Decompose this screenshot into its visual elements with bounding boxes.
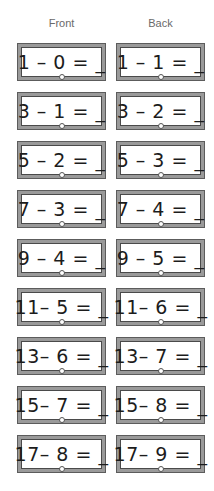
- flashcard-back: 7 – 4 = _: [116, 190, 205, 228]
- ring-hole-icon: [59, 270, 65, 276]
- card-face: 9 – 5 = _: [120, 243, 201, 273]
- equation-text: 7 – 4 = _: [117, 200, 205, 219]
- ring-hole-icon: [59, 221, 65, 227]
- equation-text: 5 – 2 = _: [18, 151, 106, 170]
- flashcard-front: 5 – 2 = _: [17, 141, 106, 179]
- ring-hole-icon: [59, 319, 65, 325]
- back-column-header: Back: [116, 17, 205, 29]
- card-face: 5 – 2 = _: [21, 145, 102, 175]
- flashcard-front: 9 – 4 = _: [17, 239, 106, 277]
- flashcard-back: 13– 7 = _: [116, 337, 205, 375]
- flashcard-back: 15– 8 = _: [116, 386, 205, 424]
- ring-hole-icon: [158, 123, 164, 129]
- ring-hole-icon: [158, 172, 164, 178]
- equation-text: 9 – 4 = _: [18, 249, 106, 268]
- flashcard-back: 17– 9 = _: [116, 435, 205, 473]
- ring-hole-icon: [158, 221, 164, 227]
- card-face: 11– 5 = _: [21, 292, 102, 322]
- equation-text: 17– 9 = _: [114, 445, 208, 464]
- card-face: 1 – 0 = _: [21, 47, 102, 77]
- card-face: 15– 7 = _: [21, 390, 102, 420]
- card-face: 3 – 2 = _: [120, 96, 201, 126]
- card-face: 5 – 3 = _: [120, 145, 201, 175]
- equation-text: 15– 8 = _: [114, 396, 208, 415]
- equation-text: 13– 7 = _: [114, 347, 208, 366]
- flashcard-back: 11– 6 = _: [116, 288, 205, 326]
- ring-hole-icon: [158, 417, 164, 423]
- ring-hole-icon: [158, 368, 164, 374]
- card-face: 7 – 4 = _: [120, 194, 201, 224]
- card-face: 1 – 1 = _: [120, 47, 201, 77]
- ring-hole-icon: [59, 74, 65, 80]
- ring-hole-icon: [59, 172, 65, 178]
- ring-hole-icon: [158, 270, 164, 276]
- equation-text: 5 – 3 = _: [117, 151, 205, 170]
- equation-text: 9 – 5 = _: [117, 249, 205, 268]
- flashcard-front: 3 – 1 = _: [17, 92, 106, 130]
- flashcard-front: 13– 6 = _: [17, 337, 106, 375]
- card-face: 17– 8 = _: [21, 439, 102, 469]
- equation-text: 3 – 2 = _: [117, 102, 205, 121]
- card-face: 11– 6 = _: [120, 292, 201, 322]
- flashcard-back: 3 – 2 = _: [116, 92, 205, 130]
- flashcard-front: 11– 5 = _: [17, 288, 106, 326]
- card-face: 3 – 1 = _: [21, 96, 102, 126]
- ring-hole-icon: [158, 74, 164, 80]
- ring-hole-icon: [59, 466, 65, 472]
- ring-hole-icon: [59, 123, 65, 129]
- equation-text: 13– 6 = _: [15, 347, 109, 366]
- flashcard-front: 7 – 3 = _: [17, 190, 106, 228]
- card-face: 17– 9 = _: [120, 439, 201, 469]
- flashcard-front: 15– 7 = _: [17, 386, 106, 424]
- card-face: 7 – 3 = _: [21, 194, 102, 224]
- equation-text: 3 – 1 = _: [18, 102, 106, 121]
- ring-hole-icon: [158, 319, 164, 325]
- card-face: 13– 7 = _: [120, 341, 201, 371]
- front-column-header: Front: [17, 17, 106, 29]
- flashcard-back: 9 – 5 = _: [116, 239, 205, 277]
- flashcard-front: 17– 8 = _: [17, 435, 106, 473]
- equation-text: 11– 6 = _: [114, 298, 208, 317]
- equation-text: 15– 7 = _: [15, 396, 109, 415]
- ring-hole-icon: [59, 417, 65, 423]
- card-face: 9 – 4 = _: [21, 243, 102, 273]
- flashcard-back: 5 – 3 = _: [116, 141, 205, 179]
- card-face: 15– 8 = _: [120, 390, 201, 420]
- ring-hole-icon: [59, 368, 65, 374]
- equation-text: 7 – 3 = _: [18, 200, 106, 219]
- flashcard-back: 1 – 1 = _: [116, 43, 205, 81]
- ring-hole-icon: [158, 466, 164, 472]
- equation-text: 17– 8 = _: [15, 445, 109, 464]
- card-face: 13– 6 = _: [21, 341, 102, 371]
- equation-text: 1 – 1 = _: [117, 53, 205, 72]
- flashcard-front: 1 – 0 = _: [17, 43, 106, 81]
- equation-text: 11– 5 = _: [15, 298, 109, 317]
- equation-text: 1 – 0 = _: [18, 53, 106, 72]
